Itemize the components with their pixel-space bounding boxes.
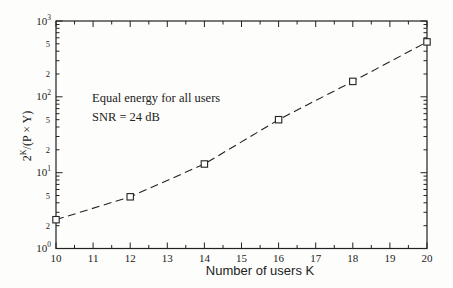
svg-text:20: 20 xyxy=(422,252,434,264)
svg-text:5: 5 xyxy=(46,39,50,49)
data-point-marker xyxy=(53,217,59,223)
svg-text:2: 2 xyxy=(46,145,50,155)
svg-text:2: 2 xyxy=(46,69,50,79)
data-point-marker xyxy=(201,161,207,167)
svg-text:2: 2 xyxy=(46,221,50,231)
data-point-marker xyxy=(127,194,133,200)
svg-text:18: 18 xyxy=(347,252,359,264)
svg-text:Equal energy for all users: Equal energy for all users xyxy=(92,91,220,105)
svg-text:19: 19 xyxy=(384,252,396,264)
svg-text:SNR = 24 dB: SNR = 24 dB xyxy=(92,110,160,124)
line-chart: 1011121314151617181920100251012510225103… xyxy=(0,0,453,288)
data-point-marker xyxy=(424,39,430,45)
x-axis-title: Number of users K xyxy=(206,263,315,278)
svg-text:11: 11 xyxy=(88,252,99,264)
figure: 1011121314151617181920100251012510225103… xyxy=(0,0,453,288)
svg-text:5: 5 xyxy=(46,191,50,201)
svg-text:5: 5 xyxy=(46,115,50,125)
figure-background xyxy=(0,0,453,288)
svg-text:12: 12 xyxy=(125,252,136,264)
data-point-marker xyxy=(350,78,356,84)
svg-text:10: 10 xyxy=(51,252,63,264)
svg-text:Number of users K: Number of users K xyxy=(206,263,315,278)
svg-text:13: 13 xyxy=(162,252,174,264)
data-point-marker xyxy=(275,117,281,123)
